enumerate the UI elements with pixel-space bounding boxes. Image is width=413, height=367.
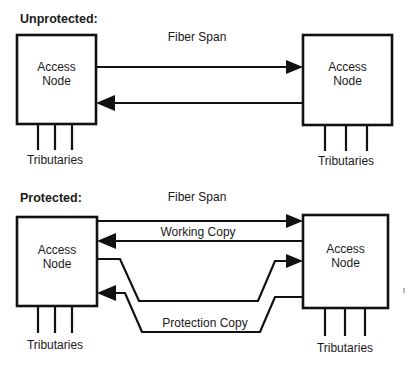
protected-left-tributary-lines (38, 306, 72, 333)
section-protected: Protected: Fiber Span Access Node Tribut… (17, 190, 405, 355)
unprotected-right-access-node-label-line2: Node (333, 74, 362, 88)
unprotected-forward-fiber-arrow (96, 60, 303, 74)
unprotected-right-tributaries-label: Tributaries (318, 154, 374, 168)
diagram-canvas: Unprotected: Fiber Span Access Node Trib… (0, 0, 413, 367)
protected-left-access-node-label-line2: Node (43, 257, 72, 271)
unprotected-right-tributary-lines (325, 125, 367, 151)
protected-right-tributary-lines (325, 308, 365, 336)
protected-right-tributaries-label: Tributaries (317, 341, 373, 355)
protected-fiber-span-label: Fiber Span (168, 190, 227, 204)
protected-right-access-node-label-line1: Access (326, 242, 365, 256)
scan-artifact-speck (403, 288, 405, 293)
unprotected-fiber-span-label: Fiber Span (168, 30, 227, 44)
unprotected-reverse-fiber-arrow (96, 95, 303, 111)
protected-right-access-node-label-line2: Node (331, 256, 360, 270)
protected-left-tributaries-label: Tributaries (27, 338, 83, 352)
protected-section-title: Protected: (20, 191, 82, 205)
section-unprotected: Unprotected: Fiber Span Access Node Trib… (17, 12, 392, 168)
unprotected-left-access-node-label-line1: Access (37, 60, 76, 74)
unprotected-right-access-node-label-line1: Access (328, 60, 367, 74)
protected-working-copy-label: Working Copy (160, 225, 235, 239)
protected-left-access-node-label-line1: Access (38, 243, 77, 257)
protected-protection-forward-arrow (97, 254, 303, 301)
unprotected-left-access-node-label-line2: Node (42, 74, 71, 88)
unprotected-left-tributaries-label: Tributaries (27, 153, 83, 167)
fiber-span-diagram: Unprotected: Fiber Span Access Node Trib… (0, 0, 413, 367)
protected-protection-copy-label: Protection Copy (162, 316, 247, 330)
unprotected-section-title: Unprotected: (20, 12, 98, 26)
unprotected-left-tributary-lines (38, 124, 72, 150)
